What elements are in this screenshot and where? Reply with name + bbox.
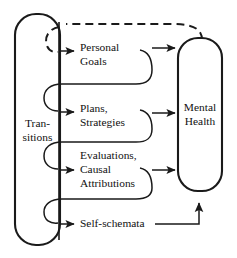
- mental-health-label-line-2: Health: [185, 115, 216, 127]
- node-self-schemata[interactable]: Self-schemata: [80, 217, 145, 229]
- node-evaluations-causal-attributions[interactable]: Evaluations, Causal Attributions: [80, 149, 137, 189]
- flow-diagram: Tran- sitions Mental Health P: [0, 0, 237, 258]
- mental-health-label-line-1: Mental: [184, 101, 216, 113]
- diagram-canvas: Tran- sitions Mental Health P: [0, 0, 237, 258]
- personal-goals-label-line-1: Personal: [80, 41, 119, 53]
- transitions-label-line-1: Tran-: [25, 117, 50, 129]
- evaluations-label-line-1: Evaluations,: [80, 149, 137, 161]
- transitions-label-line-2: sitions: [23, 131, 53, 143]
- node-mental-health[interactable]: Mental Health: [178, 38, 222, 191]
- transitions-box-shape: [15, 14, 60, 245]
- node-plans-strategies[interactable]: Plans, Strategies: [80, 102, 125, 128]
- self-schemata-label: Self-schemata: [80, 217, 145, 229]
- evaluations-label-line-3: Attributions: [80, 177, 136, 189]
- personal-goals-label-line-2: Goals: [80, 55, 107, 67]
- evaluations-label-line-2: Causal: [80, 163, 111, 175]
- node-transitions[interactable]: Tran- sitions: [15, 14, 60, 245]
- node-personal-goals[interactable]: Personal Goals: [80, 41, 119, 67]
- edge-self-schemata-to-mental-health: [155, 203, 199, 224]
- plans-strategies-label-line-2: Strategies: [80, 116, 125, 128]
- edge-mental-health-to-transitions-dashed: [66, 24, 202, 40]
- plans-strategies-label-line-1: Plans,: [80, 102, 108, 114]
